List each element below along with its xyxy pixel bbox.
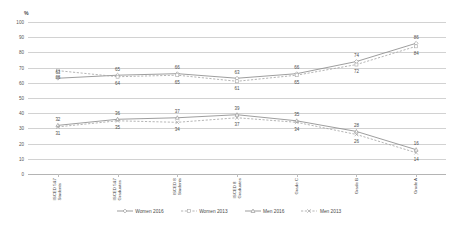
legend-swatch-icon: [117, 208, 133, 214]
y-tick-label: 40: [19, 111, 24, 116]
data-point-marker-square: [236, 80, 239, 83]
data-value-label: 66: [294, 65, 299, 70]
legend-label: Men 2013: [320, 209, 341, 214]
legend-label: Men 2016: [263, 209, 284, 214]
data-value-label: 37: [175, 109, 180, 114]
data-value-label: 36: [115, 110, 120, 115]
legend-item-men-2016[interactable]: Men 2016: [245, 208, 285, 214]
legend-label: Women 2016: [135, 209, 163, 214]
data-value-label: 63: [235, 69, 240, 74]
legend-item-men-2013[interactable]: Men 2013: [301, 208, 341, 214]
x-tick-label-text: Grade C: [294, 178, 299, 195]
legend-swatch-icon: [245, 208, 261, 214]
data-value-label: 63: [55, 69, 60, 74]
y-tick-label: 100: [16, 20, 24, 25]
data-value-label: 65: [175, 79, 180, 84]
data-point-marker-square: [116, 75, 119, 78]
legend-label: Women 2013: [199, 209, 227, 214]
y-tick-label: 0: [21, 172, 24, 177]
data-value-label: 64: [115, 81, 120, 86]
legend-swatch-icon: [301, 208, 317, 214]
data-point-marker-square: [176, 74, 179, 77]
data-value-label: 37: [235, 122, 240, 127]
series-lines: [28, 22, 446, 174]
y-tick-label: 10: [19, 156, 24, 161]
data-value-label: 65: [115, 66, 120, 71]
y-tick-label: 70: [19, 65, 24, 70]
data-point-marker-square: [415, 45, 418, 48]
y-axis-unit-label: %: [24, 10, 29, 16]
data-value-label: 35: [294, 112, 299, 117]
x-tick-label-text: ISCED 5&7 Graduates: [112, 178, 123, 200]
data-point-marker-square: [295, 74, 298, 77]
x-tick: [118, 174, 119, 177]
x-tick: [416, 174, 417, 177]
line-chart: % 0102030405060708090100 636566636674866…: [0, 0, 458, 230]
x-tick-label-text: Grade B: [354, 178, 359, 194]
legend-item-women-2016[interactable]: Women 2016: [117, 208, 164, 214]
data-value-label: 34: [175, 126, 180, 131]
y-tick-label: 20: [19, 141, 24, 146]
data-value-label: 32: [55, 116, 60, 121]
data-value-label: 39: [235, 106, 240, 111]
x-tick: [177, 174, 178, 177]
data-value-label: 34: [294, 126, 299, 131]
data-value-label: 31: [55, 131, 60, 136]
x-tick: [356, 174, 357, 177]
data-value-label: 74: [354, 53, 359, 58]
plot-area: 0102030405060708090100 63656663667486686…: [28, 22, 446, 174]
data-point-marker-diamond: [123, 209, 127, 213]
data-value-label: 72: [354, 69, 359, 74]
legend-item-women-2013[interactable]: Women 2013: [181, 208, 228, 214]
data-value-label: 35: [115, 125, 120, 130]
y-tick-label: 50: [19, 96, 24, 101]
data-value-label: 68: [55, 75, 60, 80]
data-value-label: 14: [414, 157, 419, 162]
data-value-label: 16: [414, 141, 419, 146]
data-value-label: 26: [354, 138, 359, 143]
y-tick-label: 90: [19, 35, 24, 40]
x-tick: [58, 174, 59, 177]
data-value-label: 66: [175, 65, 180, 70]
chart-legend: Women 2016Women 2013Men 2016Men 2013: [0, 208, 458, 214]
y-tick-label: 60: [19, 80, 24, 85]
data-value-label: 84: [414, 50, 419, 55]
x-tick-label-text: Grade A: [413, 178, 418, 194]
data-point-marker-square: [187, 210, 190, 213]
x-tick-label-text: ISCED 8 Graduates: [232, 178, 243, 199]
data-value-label: 28: [354, 122, 359, 127]
x-tick-label-text: ISCED 5&7 Students: [52, 178, 63, 200]
series-line-men-2016: [58, 115, 416, 150]
data-point-marker-square: [355, 63, 358, 66]
data-value-label: 61: [235, 85, 240, 90]
data-value-label: 65: [294, 79, 299, 84]
y-tick-label: 30: [19, 126, 24, 131]
y-tick-label: 80: [19, 50, 24, 55]
legend-swatch-icon: [181, 208, 197, 214]
x-tick-label-text: ISCED 8 Students: [172, 178, 183, 195]
x-tick: [297, 174, 298, 177]
data-value-label: 86: [414, 34, 419, 39]
